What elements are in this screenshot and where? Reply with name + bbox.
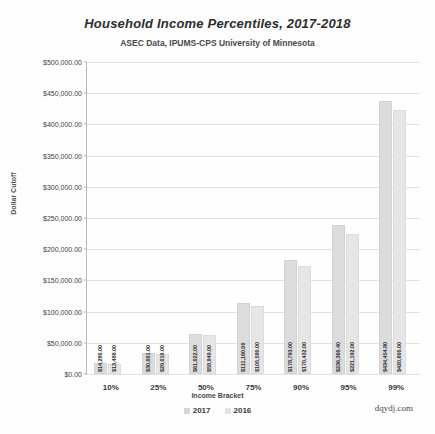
y-axis-label: $250,000.00 — [43, 215, 82, 222]
chart-title: Household Income Percentiles, 2017-2018 — [0, 16, 435, 31]
bar-group: $236,360.40$221,192.0095% — [325, 62, 373, 374]
gridline — [87, 374, 420, 375]
x-axis-label-75%: 75% — [233, 383, 273, 392]
x-axis-label-99%: 99% — [376, 383, 416, 392]
bar-value-label: $221,192.00 — [349, 318, 355, 372]
bar-value-label: $14,280.00 — [97, 318, 103, 372]
y-axis-label: $400,000.00 — [43, 121, 82, 128]
y-axis-label: $200,000.00 — [43, 246, 82, 253]
bar-value-label: $13,488.00 — [111, 318, 117, 372]
watermark: dqydj.com — [375, 403, 413, 413]
plot-area: $0.00$50,000.00$100,000.00$150,000.00$20… — [86, 62, 420, 375]
x-axis-label-90%: 90% — [281, 383, 321, 392]
bar-group: $30,001.00$29,010.0025% — [135, 62, 183, 374]
bar-group: $61,022.00$58,849.0050% — [182, 62, 230, 374]
legend-label-2016: 2016 — [234, 406, 252, 415]
legend-item-2016[interactable]: 2016 — [225, 406, 252, 415]
y-axis-label: $350,000.00 — [43, 152, 82, 159]
y-axis-label: $100,000.00 — [43, 308, 82, 315]
bar-value-label: $29,010.00 — [159, 318, 165, 372]
x-axis-label-50%: 50% — [186, 383, 226, 392]
bar-value-label: $236,360.40 — [335, 318, 341, 372]
legend-swatch-2016 — [225, 408, 231, 414]
bar-group: $178,793.00$170,432.0090% — [277, 62, 325, 374]
bar-value-label: $420,600.00 — [396, 318, 402, 372]
bar-value-label: $178,793.00 — [287, 318, 293, 372]
x-axis-title: Income Bracket — [0, 392, 435, 399]
legend-item-2017[interactable]: 2017 — [184, 406, 211, 415]
chart-subtitle: ASEC Data, IPUMS-CPS University of Minne… — [0, 38, 435, 48]
legend-label-2017: 2017 — [193, 406, 211, 415]
y-axis-label: $300,000.00 — [43, 183, 82, 190]
chart-container: Household Income Percentiles, 2017-2018 … — [0, 0, 435, 434]
bar-group: $434,454.80$420,600.0099% — [372, 62, 420, 374]
y-axis-label: $150,000.00 — [43, 277, 82, 284]
y-axis-label: $500,000.00 — [43, 59, 82, 66]
chart-legend: 2017 2016 — [0, 406, 435, 415]
bar-value-label: $105,580.00 — [254, 318, 260, 372]
bar-value-label: $170,432.00 — [301, 318, 307, 372]
legend-swatch-2017 — [184, 408, 190, 414]
bar-value-label: $58,849.00 — [206, 318, 212, 372]
y-axis-label: $450,000.00 — [43, 90, 82, 97]
bar-value-label: $61,022.00 — [192, 318, 198, 372]
y-axis-title: Dollar Cutoff — [10, 159, 17, 229]
y-axis-label: $0.00 — [64, 371, 82, 378]
x-axis-label-10%: 10% — [91, 383, 131, 392]
bar-value-label: $434,454.80 — [382, 318, 388, 372]
x-axis-label-25%: 25% — [138, 383, 178, 392]
bar-value-label: $30,001.00 — [145, 318, 151, 372]
bar-group: $111,160.00$105,580.0075% — [230, 62, 278, 374]
bar-group: $14,280.00$13,488.0010% — [87, 62, 135, 374]
x-axis-label-95%: 95% — [329, 383, 369, 392]
y-axis-label: $50,000.00 — [47, 339, 82, 346]
bar-value-label: $111,160.00 — [240, 318, 246, 372]
